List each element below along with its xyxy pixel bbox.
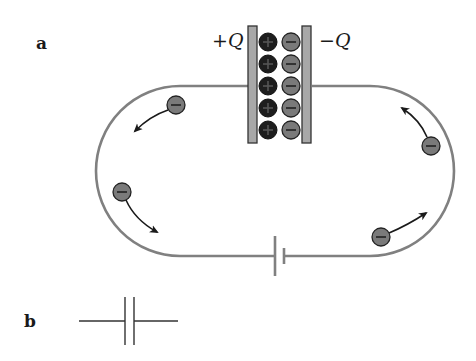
negative-charge-icon bbox=[282, 99, 300, 117]
negative-charge-icon bbox=[282, 33, 300, 51]
negative-charge-label: −Q bbox=[319, 29, 351, 51]
capacitor-charging-diagram: a +Q −Q bbox=[0, 0, 476, 361]
arrow-icon bbox=[126, 200, 157, 232]
arrow-icon bbox=[389, 213, 426, 233]
positive-charge-icon bbox=[259, 55, 277, 73]
capacitor-symbol bbox=[79, 297, 178, 345]
positive-charge-label: +Q bbox=[212, 29, 244, 51]
arrow-icon bbox=[402, 108, 427, 137]
positive-charge-icon bbox=[259, 121, 277, 139]
positive-charge-icon bbox=[259, 33, 277, 51]
panel-label-a: a bbox=[36, 33, 47, 53]
panel-label-b: b bbox=[24, 311, 36, 331]
battery-symbol bbox=[275, 236, 284, 276]
right-plate bbox=[302, 26, 311, 143]
positive-charges bbox=[259, 33, 277, 139]
electron-top-left bbox=[135, 96, 185, 131]
negative-charge-icon bbox=[282, 121, 300, 139]
capacitor: +Q −Q bbox=[212, 26, 351, 143]
arrow-icon bbox=[135, 110, 168, 131]
negative-charge-icon bbox=[282, 77, 300, 95]
positive-charge-icon bbox=[259, 77, 277, 95]
electron-bottom-left bbox=[113, 183, 157, 232]
positive-charge-icon bbox=[259, 99, 277, 117]
negative-charge-icon bbox=[282, 55, 300, 73]
negative-charges bbox=[282, 33, 300, 139]
left-plate bbox=[248, 26, 257, 143]
